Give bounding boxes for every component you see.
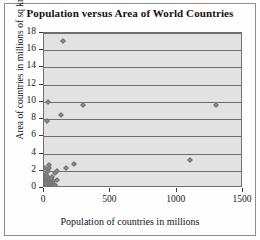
data-point [46,99,52,105]
data-point [71,161,77,167]
gridline [44,154,241,155]
gridline [44,33,241,34]
data-point [187,157,193,163]
gridline [44,67,241,68]
x-tick-mark [176,188,177,192]
chart-figure: Population versus Area of World Countrie… [0,0,260,240]
y-tick-label: 10 [27,96,37,106]
data-point [44,119,49,125]
y-axis-label: Area of countries in millions of sq km [15,0,25,147]
y-tick-label: 4 [31,148,36,158]
data-point [63,165,69,171]
gridline [44,102,241,103]
x-tick-label: 0 [23,195,63,205]
gridline [44,85,241,86]
y-tick-label: 6 [31,130,36,140]
gridline [44,119,241,120]
x-tick-label: 1000 [156,195,196,205]
y-tick-label: 0 [31,182,36,192]
plot-area [43,32,242,187]
gridline [44,136,241,137]
data-point [80,102,86,108]
x-tick-label: 1500 [222,195,260,205]
x-tick-label: 500 [89,195,129,205]
x-tick-mark [109,188,110,192]
y-tick-label: 2 [31,165,36,175]
x-axis-label: Population of countries in millions [18,216,242,227]
y-tick-label: 18 [27,27,37,37]
gridline [44,50,241,51]
chart-title: Population versus Area of World Countrie… [10,7,250,19]
plot-inner [44,33,241,186]
gridline [44,171,241,172]
y-tick-label: 12 [27,79,37,89]
y-tick-label: 14 [27,61,37,71]
y-tick-label: 16 [27,44,37,54]
x-tick-mark [43,188,44,192]
data-point [60,38,66,44]
x-tick-mark [242,188,243,192]
data-point [58,112,64,118]
y-tick-label: 8 [31,113,36,123]
data-point [214,102,220,108]
